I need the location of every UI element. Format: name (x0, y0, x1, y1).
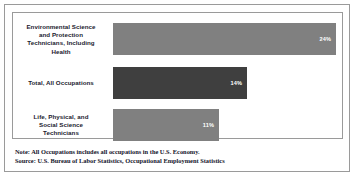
footnote-source: Source: U.S. Bureau of Labor Statistics,… (15, 156, 341, 165)
bar-row: Life, Physical, and Social Science Techn… (13, 109, 342, 141)
bar-value-label: 11% (203, 122, 214, 128)
category-label: Total, All Occupations (15, 79, 107, 87)
bar-value-label: 14% (231, 80, 243, 86)
category-label-line: and Protection (15, 31, 107, 39)
category-label-line: Technicians (15, 129, 107, 137)
bar-row: Total, All Occupations 14% (13, 67, 342, 99)
plot-area: Environmental Science and Protection Tec… (12, 12, 343, 139)
bar-environmental-science-technicians: 24% (113, 23, 336, 55)
category-label-line: Environmental Science (15, 23, 107, 31)
category-label-line: Social Science (15, 121, 107, 129)
category-label: Life, Physical, and Social Science Techn… (15, 113, 107, 138)
category-label-line: Total, All Occupations (15, 79, 107, 87)
category-label-line: Life, Physical, and (15, 113, 107, 121)
chart-figure: Environmental Science and Protection Tec… (4, 4, 350, 172)
bar-life-physical-social-science-technicians: 11% (113, 109, 219, 141)
bar-row: Environmental Science and Protection Tec… (13, 23, 342, 55)
bar-value-label: 24% (320, 36, 332, 42)
chart-footnote: Note: All Occupations includes all occup… (15, 147, 341, 165)
bar-total-all-occupations: 14% (113, 67, 247, 99)
category-label-line: Technicians, Including (15, 39, 107, 47)
category-label-line: Health (15, 47, 107, 55)
footnote-note: Note: All Occupations includes all occup… (15, 147, 341, 156)
category-label: Environmental Science and Protection Tec… (15, 23, 107, 56)
